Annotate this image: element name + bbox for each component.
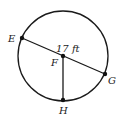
label-g: G bbox=[108, 75, 116, 86]
point-f bbox=[61, 54, 65, 58]
point-h bbox=[61, 98, 65, 102]
label-h: H bbox=[58, 105, 68, 116]
measure-label: 17 ft bbox=[56, 43, 81, 54]
label-f: F bbox=[50, 57, 59, 68]
point-e bbox=[20, 36, 24, 40]
circle-diagram: E F G H 17 ft bbox=[0, 0, 122, 120]
label-e: E bbox=[7, 33, 16, 44]
point-g bbox=[103, 72, 107, 76]
